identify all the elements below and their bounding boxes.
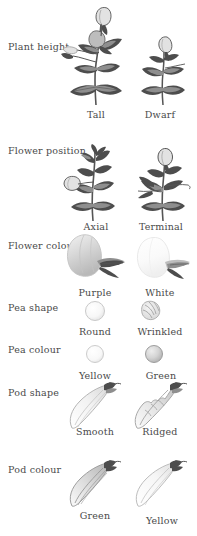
wrinkled-pea-illustration — [138, 297, 164, 323]
form-label-green-pod: Green — [80, 511, 111, 521]
form-label-green-pea: Green — [146, 371, 177, 381]
ridged-pod-illustration — [132, 382, 188, 432]
terminal-flower-plant-illustration — [132, 146, 194, 222]
green-pea-illustration — [141, 341, 167, 367]
trait-label-pod-colour: Pod colour — [8, 465, 61, 475]
form-label-purple: Purple — [79, 288, 112, 298]
form-label-tall: Tall — [87, 110, 105, 120]
form-label-wrinkled: Wrinkled — [137, 327, 182, 337]
trait-label-pea-colour: Pea colour — [8, 345, 61, 355]
form-label-yellow-pod: Yellow — [146, 516, 178, 526]
round-pea-illustration — [82, 298, 108, 324]
axial-flower-plant-illustration — [62, 144, 124, 222]
green-pod-illustration — [66, 460, 122, 510]
tall-pea-plant-illustration — [60, 2, 132, 106]
form-label-terminal: Terminal — [139, 222, 183, 232]
mendel-pea-traits-figure: Plant height — [0, 0, 197, 536]
yellow-pea-illustration — [82, 341, 108, 367]
white-flower-illustration — [134, 236, 194, 284]
dwarf-pea-plant-illustration — [134, 34, 192, 106]
form-label-axial: Axial — [84, 222, 109, 232]
form-label-dwarf: Dwarf — [145, 110, 175, 120]
yellow-pod-illustration — [132, 460, 188, 510]
form-label-yellow-pea: Yellow — [79, 371, 111, 381]
smooth-pod-illustration — [66, 382, 122, 432]
trait-label-pea-shape: Pea shape — [8, 303, 58, 313]
purple-flower-illustration — [64, 233, 130, 283]
form-label-smooth: Smooth — [76, 427, 114, 437]
trait-label-pod-shape: Pod shape — [8, 388, 59, 398]
form-label-round: Round — [79, 327, 111, 337]
form-label-ridged: Ridged — [142, 427, 177, 437]
